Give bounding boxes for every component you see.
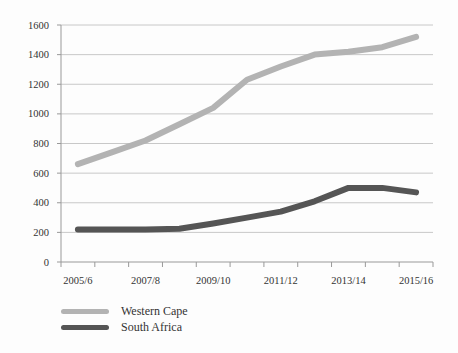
series-lines <box>78 37 416 230</box>
legend-swatch-western-cape <box>61 309 109 314</box>
y-tick-label: 800 <box>33 138 49 149</box>
gridlines <box>61 25 433 232</box>
y-tick-label: 1400 <box>28 49 49 60</box>
y-tick-label: 200 <box>33 227 49 238</box>
series-line-south-africa <box>78 188 416 230</box>
x-tick-label: 2005/6 <box>63 275 92 286</box>
x-tick-label: 2009/10 <box>196 275 230 286</box>
y-tick-label: 0 <box>44 257 49 268</box>
x-tick-label: 2015/16 <box>399 275 433 286</box>
legend-swatch-south-africa <box>61 325 109 330</box>
legend: Western Cape South Africa <box>61 303 188 335</box>
x-tick-label: 2007/8 <box>131 275 160 286</box>
y-tick-label: 1000 <box>28 108 49 119</box>
legend-item-western-cape: Western Cape <box>61 303 188 319</box>
y-tick-label: 1200 <box>28 79 49 90</box>
x-tick-label: 2011/12 <box>264 275 298 286</box>
line-chart: 02004006008001000120014001600 2005/62007… <box>0 0 458 353</box>
legend-label: Western Cape <box>121 304 188 319</box>
series-line-western-cape <box>78 37 416 164</box>
x-tick-label: 2013/14 <box>331 275 366 286</box>
y-tick-label: 400 <box>33 197 49 208</box>
y-tick-label: 600 <box>33 168 49 179</box>
legend-label: South Africa <box>121 320 182 335</box>
y-tick-label: 1600 <box>28 20 49 31</box>
legend-item-south-africa: South Africa <box>61 319 188 335</box>
x-axis: 2005/62007/82009/102011/122013/142015/16 <box>61 262 433 286</box>
y-axis: 02004006008001000120014001600 <box>28 20 61 268</box>
